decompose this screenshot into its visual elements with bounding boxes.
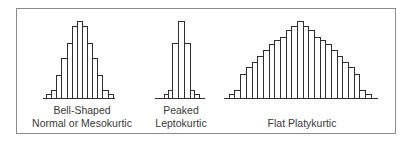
flat-histogram xyxy=(0,18,416,98)
peaked-caption-line1: Peaked xyxy=(155,104,206,117)
histogram-baseline xyxy=(224,98,378,100)
bell-caption-line1: Bell-Shaped xyxy=(32,104,132,117)
bell-shaped-caption: Bell-Shaped Normal or Mesokurtic xyxy=(32,104,132,130)
peaked-caption-line2: Leptokurtic xyxy=(155,117,206,130)
peaked-caption: Peaked Leptokurtic xyxy=(155,104,206,130)
bell-caption-line2: Normal or Mesokurtic xyxy=(32,117,132,130)
flat-caption: Flat Platykurtic xyxy=(268,117,337,130)
flat-caption-line1: Flat Platykurtic xyxy=(268,117,337,130)
